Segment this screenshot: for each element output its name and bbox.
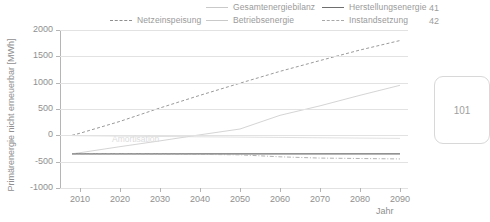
- y-axis-tick-label: 1500: [33, 50, 53, 60]
- x-axis-tick: [360, 188, 361, 192]
- y-axis-tick: [56, 83, 60, 84]
- y-axis-title-wrap: Primärenergie nicht erneuerbar [MWh]: [4, 30, 16, 188]
- x-axis-tick-label: 2020: [110, 194, 130, 204]
- y-axis-tick: [56, 162, 60, 163]
- page-number: 101: [454, 105, 471, 116]
- x-axis-tick: [320, 188, 321, 192]
- x-axis-tick-label: 2090: [390, 194, 410, 204]
- legend-swatch-solid-dark-icon: [322, 7, 344, 9]
- x-axis-tick-label: 2080: [350, 194, 370, 204]
- y-axis-title: Primärenergie nicht erneuerbar [MWh]: [6, 36, 16, 194]
- grid-line: [60, 30, 408, 31]
- x-axis-tick: [80, 188, 81, 192]
- line-chart: Primärenergie nicht erneuerbar [MWh] 200…: [0, 24, 430, 222]
- plot-area: 2000150010005000-500-1000201020202030204…: [60, 30, 408, 188]
- x-axis-tick: [160, 188, 161, 192]
- x-axis-tick-label: 2030: [150, 194, 170, 204]
- legend-label: Gesamtenergiebilanz: [233, 1, 315, 14]
- y-axis-tick: [56, 188, 60, 189]
- grid-line: [60, 56, 408, 57]
- y-axis-tick-label: 0: [48, 129, 53, 139]
- grid-line: [60, 162, 408, 163]
- y-axis-tick: [56, 109, 60, 110]
- legend-swatch-solid-light-icon: [206, 7, 228, 9]
- x-axis-tick: [240, 188, 241, 192]
- legend-item-gesamtenergiebilanz: Gesamtenergiebilanz: [206, 1, 315, 14]
- x-axis-tick-label: 2040: [190, 194, 210, 204]
- legend-item-herstellungsenergie: Herstellungsenergie: [322, 1, 427, 14]
- x-axis-tick: [120, 188, 121, 192]
- chart-annotation: Amortisation: [112, 134, 159, 144]
- x-axis-tick-label: 2010: [70, 194, 90, 204]
- y-axis-tick: [56, 56, 60, 57]
- legend-swatch-dashed-icon: [110, 20, 132, 22]
- series-line: [72, 154, 400, 159]
- legend-swatch-dashdot-icon: [322, 20, 344, 22]
- line-number: 41: [429, 2, 439, 15]
- series-line: [72, 41, 400, 136]
- line-number: 42: [429, 15, 439, 28]
- legend-swatch-solid-light-icon: [206, 20, 228, 22]
- y-axis-tick-label: 500: [38, 103, 53, 113]
- x-axis-tick-label: 2060: [270, 194, 290, 204]
- y-axis-tick-label: -500: [35, 156, 53, 166]
- x-axis-title: Jahr: [376, 206, 394, 216]
- y-axis-tick: [56, 30, 60, 31]
- x-axis-tick-label: 2070: [310, 194, 330, 204]
- page-number-box: 101: [434, 76, 490, 144]
- legend-label: Herstellungsenergie: [349, 1, 427, 14]
- x-axis-tick: [400, 188, 401, 192]
- x-axis-tick: [280, 188, 281, 192]
- grid-line: [60, 83, 408, 84]
- y-axis-tick-label: -1000: [30, 182, 53, 192]
- y-axis-tick-label: 1000: [33, 77, 53, 87]
- grid-line: [60, 109, 408, 110]
- grid-line: [60, 188, 408, 189]
- x-axis-tick-label: 2050: [230, 194, 250, 204]
- y-axis-tick-label: 2000: [33, 24, 53, 34]
- y-axis-tick: [56, 135, 60, 136]
- x-axis-tick: [200, 188, 201, 192]
- margin-line-numbers: 41 42: [429, 2, 439, 28]
